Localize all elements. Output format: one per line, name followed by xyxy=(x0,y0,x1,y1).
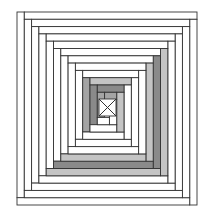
strip-top-ring-5 xyxy=(61,49,161,56)
strip-right-ring-0 xyxy=(190,19,197,205)
strip-top-ring-6 xyxy=(68,56,153,63)
log-cabin-spiral-figure xyxy=(0,0,214,217)
strip-left-ring-5 xyxy=(54,49,61,162)
strip-left-ring-0 xyxy=(17,12,24,198)
strip-right-ring-8 xyxy=(131,78,138,147)
strip-right-ring-4 xyxy=(161,49,168,176)
strip-left-ring-6 xyxy=(61,56,68,154)
strip-bottom-ring-0 xyxy=(17,198,190,205)
strip-right-ring-1 xyxy=(182,27,189,198)
strip-top-ring-7 xyxy=(75,63,145,70)
strip-left-ring-2 xyxy=(32,27,39,184)
strip-right-ring-3 xyxy=(168,41,175,183)
strip-bottom-ring-3 xyxy=(39,176,168,183)
strip-top-ring-1 xyxy=(32,19,190,26)
strip-bottom-ring-11 xyxy=(97,117,109,124)
strip-right-ring-2 xyxy=(175,34,182,191)
strip-bottom-ring-4 xyxy=(46,169,160,176)
strip-right-ring-6 xyxy=(146,63,153,161)
strip-top-ring-4 xyxy=(54,41,168,48)
strip-left-ring-7 xyxy=(68,63,75,147)
strip-bottom-ring-7 xyxy=(68,147,139,154)
strip-bottom-ring-2 xyxy=(32,183,176,190)
strip-left-ring-1 xyxy=(24,19,31,190)
strip-right-ring-10 xyxy=(117,92,124,132)
strip-bottom-ring-6 xyxy=(61,154,146,161)
strip-right-ring-9 xyxy=(124,85,131,139)
strip-left-ring-9 xyxy=(83,78,90,132)
strip-bottom-ring-5 xyxy=(54,161,154,168)
strip-left-ring-10 xyxy=(90,85,97,125)
strip-bottom-ring-8 xyxy=(75,139,131,146)
strip-left-ring-3 xyxy=(39,34,46,176)
spiral-drawing xyxy=(0,0,214,217)
strip-left-ring-8 xyxy=(75,70,82,139)
strip-left-ring-4 xyxy=(46,41,53,168)
strip-right-ring-5 xyxy=(153,56,160,169)
strip-top-ring-2 xyxy=(39,27,183,34)
strip-top-ring-11 xyxy=(105,92,117,99)
strip-bottom-ring-1 xyxy=(24,190,182,197)
strip-bottom-ring-9 xyxy=(83,132,124,139)
strip-top-ring-0 xyxy=(24,12,197,19)
strip-top-ring-8 xyxy=(83,70,139,77)
strip-top-ring-9 xyxy=(90,78,131,85)
strip-right-ring-7 xyxy=(139,70,146,153)
strip-top-ring-10 xyxy=(97,85,124,92)
strip-bottom-ring-10 xyxy=(90,125,117,132)
strip-top-ring-3 xyxy=(46,34,175,41)
